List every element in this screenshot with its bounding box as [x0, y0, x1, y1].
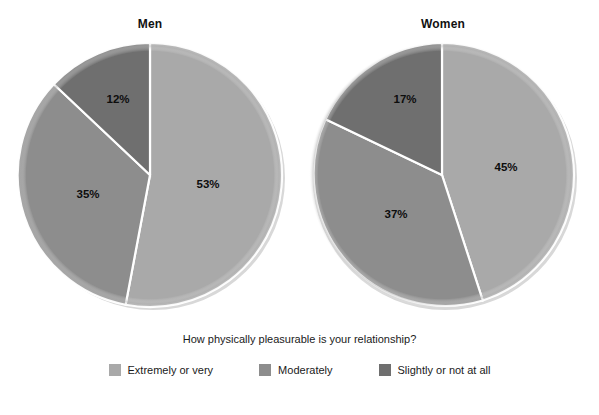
legend-label-slightly-or-not-at-all: Slightly or not at all [398, 364, 491, 376]
legend-swatch-icon-moderately [259, 364, 271, 376]
pie-chart-men: 53% 35% 12% [14, 39, 286, 311]
chart-title-men: Men [110, 17, 190, 31]
chart-legend: Extremely or very Moderately Slightly or… [0, 364, 599, 376]
pie-women-edge-shadow [309, 42, 575, 308]
pie-men-label-extremely-or-very: 53% [196, 178, 219, 190]
legend-swatch-icon-slightly-or-not-at-all [379, 364, 391, 376]
legend-item-extremely-or-very: Extremely or very [109, 364, 214, 376]
legend-label-moderately: Moderately [278, 364, 332, 376]
pie-women-label-moderately: 37% [384, 208, 407, 220]
legend-swatch-icon-extremely-or-very [109, 364, 121, 376]
chart-title-women: Women [400, 17, 486, 31]
legend-item-slightly-or-not-at-all: Slightly or not at all [379, 364, 491, 376]
pie-men-label-moderately: 35% [76, 188, 99, 200]
pie-men-svg [14, 39, 286, 311]
pie-women-svg [306, 39, 578, 311]
chart-caption: How physically pleasurable is your relat… [0, 333, 599, 345]
pie-women-label-slightly-or-not-at-all: 17% [393, 93, 416, 105]
pie-men-label-slightly-or-not-at-all: 12% [106, 93, 129, 105]
pie-chart-figure: Men 53% 35% 12% Women [0, 0, 599, 415]
pie-men-edge-shadow [17, 42, 283, 308]
pie-chart-women: 45% 37% 17% [306, 39, 578, 311]
pie-women-label-extremely-or-very: 45% [494, 161, 517, 173]
legend-item-moderately: Moderately [259, 364, 332, 376]
legend-label-extremely-or-very: Extremely or very [128, 364, 214, 376]
